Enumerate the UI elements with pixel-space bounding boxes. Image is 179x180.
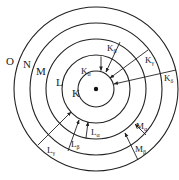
shell-label-m: M <box>36 65 46 77</box>
label-l-alpha: Lα <box>91 127 101 138</box>
shell-label-l: L <box>56 76 63 88</box>
label-m-alpha: Mα <box>136 121 148 132</box>
label-l-beta: Lβ <box>71 139 80 150</box>
transition-l-alpha-arrow <box>86 122 88 138</box>
label-l-gamma: Lγ <box>47 145 56 156</box>
label-k-alpha: Kα <box>81 66 92 77</box>
atomic-shell-diagram: K L M N O Kα Kβ Kγ Kδ Lα Lβ Lγ Mα Mβ <box>0 0 179 180</box>
transition-k-gamma-arrow <box>110 50 148 78</box>
shell-label-n: N <box>23 58 31 70</box>
label-k-delta: Kδ <box>164 73 174 84</box>
nucleus-dot <box>94 87 98 91</box>
shell-label-k: K <box>72 87 80 99</box>
label-k-beta: Kβ <box>107 43 117 54</box>
label-m-beta: Mβ <box>135 144 146 155</box>
shell-label-o: O <box>6 55 14 67</box>
